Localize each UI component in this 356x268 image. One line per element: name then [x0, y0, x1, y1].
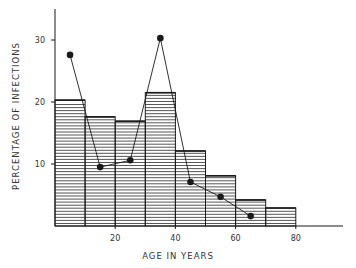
x-ticks: 20406080: [110, 226, 301, 243]
y-tick-label: 20: [35, 98, 45, 107]
x-axis-title: AGE IN YEARS: [142, 251, 214, 261]
line-path: [70, 38, 251, 216]
histogram-bar: [55, 100, 85, 226]
histogram-bar: [115, 121, 145, 226]
data-point-marker: [157, 35, 164, 42]
x-tick-label: 20: [110, 234, 120, 243]
y-axis-title: PERCENTAGE OF INFECTIONS: [11, 42, 21, 190]
y-tick-label: 30: [35, 36, 45, 45]
data-point-marker: [67, 52, 74, 59]
data-point-marker: [217, 194, 224, 201]
y-ticks: 102030: [35, 36, 55, 169]
y-tick-label: 10: [35, 160, 45, 169]
data-point-marker: [97, 164, 104, 171]
x-tick-label: 60: [231, 234, 241, 243]
data-point-marker: [247, 213, 254, 220]
bar-outline: [55, 100, 85, 226]
chart-canvas: 102030 20406080 PERCENTAGE OF INFECTIONS…: [0, 0, 356, 268]
data-point-marker: [127, 157, 134, 164]
bar-outline: [206, 176, 236, 226]
x-tick-label: 40: [170, 234, 180, 243]
histogram-bar: [175, 151, 205, 226]
histogram-bars: [55, 93, 296, 226]
histogram-bar: [85, 117, 115, 226]
histogram-bar: [266, 208, 296, 226]
histogram-bar: [206, 176, 236, 226]
x-tick-label: 80: [291, 234, 301, 243]
data-point-marker: [187, 179, 194, 186]
bar-outline: [115, 121, 145, 226]
line-series: [67, 35, 254, 220]
histogram-bar: [145, 93, 175, 226]
